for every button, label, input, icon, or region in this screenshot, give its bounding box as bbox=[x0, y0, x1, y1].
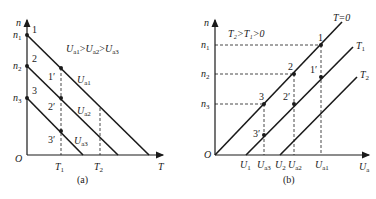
panel-b-condition: T₂>T₁>0 bbox=[228, 28, 265, 39]
point-n3 bbox=[25, 96, 29, 100]
label-2: 2 bbox=[32, 53, 37, 64]
point-3 bbox=[262, 102, 266, 106]
label-ua1: Ua1 bbox=[77, 74, 91, 87]
label-ua3: Ua3 bbox=[74, 135, 88, 148]
label-1prime: 1′ bbox=[310, 64, 317, 75]
panel-a-y-label: n bbox=[16, 17, 21, 28]
tick-ua2: Ua2 bbox=[288, 159, 302, 172]
tick-ua3: Ua3 bbox=[257, 159, 271, 172]
point-3prime bbox=[262, 133, 266, 137]
label-2prime: 2′ bbox=[283, 91, 290, 102]
tick-t2: T2 bbox=[94, 161, 104, 174]
label-3: 3 bbox=[32, 85, 37, 96]
tick-n2: n2 bbox=[201, 68, 210, 81]
tick-u1: U1 bbox=[240, 159, 251, 172]
point-1prime bbox=[59, 66, 63, 70]
point-n2 bbox=[25, 64, 29, 68]
tick-n3: n3 bbox=[13, 92, 22, 105]
label-t2: T2 bbox=[360, 69, 370, 82]
point-3prime bbox=[59, 129, 63, 133]
label-3: 3 bbox=[259, 91, 264, 102]
motor-characteristics-diagram: n T O n1 n2 n3 T1 T2 1 2 3 1′ 2′ 3′ Ua1 … bbox=[0, 0, 376, 199]
label-2: 2 bbox=[288, 61, 293, 72]
tick-u2: U2 bbox=[275, 159, 286, 172]
panel-b-x-label: Ua bbox=[359, 161, 370, 174]
label-1: 1 bbox=[32, 24, 37, 35]
panel-a-condition: Ua1>Ua2>Ua3 bbox=[66, 43, 119, 56]
tick-n2: n2 bbox=[13, 60, 22, 73]
point-2 bbox=[292, 72, 296, 76]
label-3prime: 3′ bbox=[48, 134, 55, 145]
point-n1 bbox=[25, 33, 29, 37]
label-t0: T=0 bbox=[333, 12, 350, 23]
tick-n1: n1 bbox=[201, 39, 210, 52]
tick-ua1: Ua1 bbox=[315, 159, 329, 172]
point-1prime bbox=[319, 75, 323, 79]
panel-a-x-label: T bbox=[158, 161, 165, 172]
panel-a: n T O n1 n2 n3 T1 T2 1 2 3 1′ 2′ 3′ Ua1 … bbox=[13, 17, 165, 186]
point-1 bbox=[319, 43, 323, 47]
label-1: 1 bbox=[318, 32, 323, 43]
point-2prime bbox=[59, 96, 63, 100]
point-2prime bbox=[292, 102, 296, 106]
label-2prime: 2′ bbox=[48, 101, 55, 112]
panel-b: n Ua O n1 n2 n3 U1 Ua3 U2 Ua2 Ua1 1 2 3 … bbox=[201, 12, 370, 186]
tick-n3: n3 bbox=[201, 98, 210, 111]
tick-n1: n1 bbox=[13, 29, 22, 42]
panel-b-y-label: n bbox=[204, 17, 209, 28]
label-3prime: 3′ bbox=[253, 128, 260, 139]
line-t2 bbox=[280, 77, 357, 155]
panel-b-origin: O bbox=[204, 149, 211, 160]
label-1prime: 1′ bbox=[48, 71, 55, 82]
panel-a-origin: O bbox=[15, 153, 22, 164]
tick-t1: T1 bbox=[55, 161, 65, 174]
panel-b-caption: (b) bbox=[283, 174, 295, 186]
label-t1: T1 bbox=[356, 40, 366, 53]
panel-a-caption: (a) bbox=[77, 174, 88, 186]
